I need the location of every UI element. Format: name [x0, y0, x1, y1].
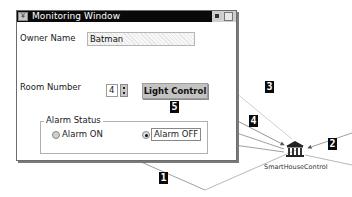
room-number-input[interactable]: 4 [106, 84, 118, 97]
owner-name-label: Owner Name [20, 33, 76, 44]
radio-selected-dot [145, 134, 148, 137]
title-buttons [212, 11, 236, 22]
maximize-icon[interactable] [224, 12, 233, 21]
badge-3: 3 [265, 81, 274, 93]
badge-2: 2 [328, 138, 337, 150]
light-control-button[interactable]: Light Control [142, 83, 208, 99]
badge-1: 1 [159, 172, 168, 184]
spin-down-icon[interactable] [123, 92, 125, 94]
badge-5: 5 [170, 101, 179, 113]
alarm-on-radio[interactable] [52, 131, 60, 139]
title-bar[interactable]: ¥ Monitoring Window [17, 11, 236, 22]
alarm-off-label[interactable]: Alarm OFF [151, 128, 201, 141]
alarm-on-label[interactable]: Alarm ON [62, 129, 103, 140]
alarm-off-radio[interactable] [142, 131, 150, 139]
spin-up-icon[interactable] [123, 87, 125, 89]
room-number-label: Room Number [20, 82, 81, 93]
building-columns-icon [285, 140, 305, 158]
room-number-spinner[interactable] [120, 84, 128, 97]
owner-name-input[interactable]: Batman [87, 32, 195, 46]
minimize-icon[interactable] [215, 14, 219, 18]
badge-4: 4 [249, 115, 258, 127]
smart-house-control-label: SmartHouseControl [264, 163, 328, 171]
window-title: Monitoring Window [32, 11, 120, 22]
window-menu-icon[interactable]: ¥ [18, 12, 28, 21]
alarm-status-label: Alarm Status [44, 115, 103, 126]
